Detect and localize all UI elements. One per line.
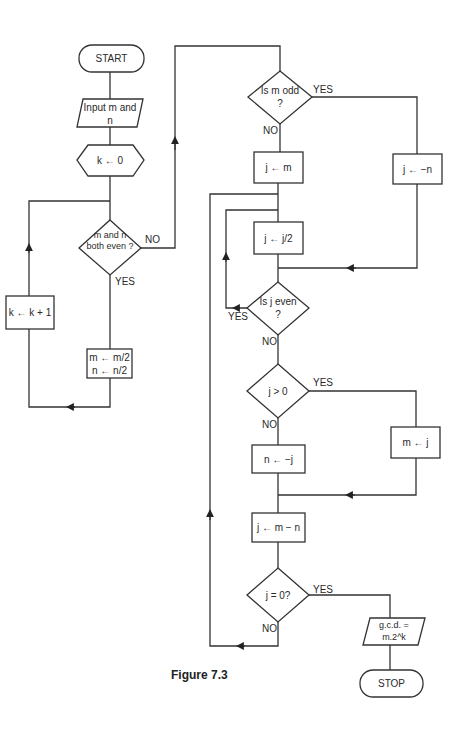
input-label: Input m and n	[80, 101, 140, 127]
halve-label: m ← m/2 n ← n/2	[87, 351, 132, 377]
init-k-label: k ← 0	[80, 154, 140, 167]
m-odd-yes-label: YES	[313, 84, 333, 95]
j-neg-n-label: j ← −n	[393, 163, 442, 176]
both-even-no-label: NO	[145, 234, 160, 245]
m-j-label: m ← j	[391, 436, 440, 449]
j-pos-no-label: NO	[262, 419, 277, 430]
m-odd-no-label: NO	[263, 125, 278, 136]
both-even-label: m and n both even ?	[84, 230, 136, 252]
gcd-label: g.c.d. = m.2^k	[368, 619, 420, 643]
figure-caption: Figure 7.3	[171, 668, 228, 682]
j-pos-yes-label: YES	[313, 377, 333, 388]
j-zero-no-label: NO	[262, 623, 277, 634]
m-odd-label: Is m odd ?	[258, 84, 302, 110]
j-even-no-label: NO	[262, 336, 277, 347]
j-even-label: Is j even ?	[257, 295, 299, 321]
j-zero-label: j = 0?	[257, 589, 299, 602]
stop-label: STOP	[360, 677, 423, 690]
j-half-label: j ← j/2	[254, 232, 303, 245]
j-zero-yes-label: YES	[313, 584, 333, 595]
j-pos-label: j > 0	[257, 385, 299, 398]
n-neg-j-label: n ← −j	[252, 453, 305, 466]
inc-k-label: k ← k + 1	[6, 306, 54, 319]
j-m-label: j ← m	[254, 161, 303, 174]
j-diff-label: j ← m − n	[252, 521, 305, 534]
start-label: START	[79, 52, 144, 65]
both-even-yes-label: YES	[115, 276, 135, 287]
j-even-yes-label: YES	[228, 311, 248, 322]
